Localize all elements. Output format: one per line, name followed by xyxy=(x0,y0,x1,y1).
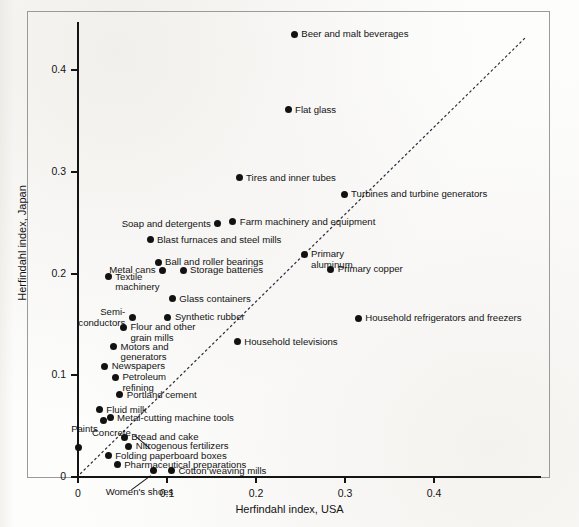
scatter-point-label: Storage batteries xyxy=(190,265,263,276)
scatter-point-label: Beer and malt beverages xyxy=(301,29,408,40)
y-tick-mark xyxy=(71,171,77,173)
scatter-point-label: Portland cement xyxy=(127,389,197,400)
y-tick-mark xyxy=(71,69,77,71)
scatter-point xyxy=(129,314,136,321)
scatter-point xyxy=(114,461,121,468)
scatter-point-label: Newspapers xyxy=(112,361,165,372)
y-tick-label: 0 xyxy=(36,470,66,482)
x-tick-mark xyxy=(344,477,346,483)
scatter-point xyxy=(355,315,362,322)
scatter-point-label: Metal-cutting machine tools xyxy=(117,413,234,424)
scatter-point xyxy=(341,191,348,198)
y-axis-title: Herfindahl index, Japan xyxy=(16,163,28,323)
y-tick-mark xyxy=(71,374,77,376)
scatter-point xyxy=(155,259,162,266)
scatter-point-label: Tires and inner tubes xyxy=(246,173,336,184)
scatter-point-label: Flat glass xyxy=(295,104,336,115)
scatter-point-label: Concrete xyxy=(92,428,131,439)
y-axis-line xyxy=(77,22,79,478)
scatter-point-label: Turbines and turbine generators xyxy=(351,189,487,200)
scatter-point-label: Blast furnaces and steel mills xyxy=(157,235,281,246)
scatter-point xyxy=(236,174,243,181)
x-tick-label: 0 xyxy=(58,487,98,499)
scatter-point-label: Household refrigerators and freezers xyxy=(365,313,521,324)
y-tick-mark xyxy=(71,273,77,275)
scatter-point xyxy=(100,417,107,424)
y-tick-label: 0.3 xyxy=(36,165,66,177)
scatter-point xyxy=(180,267,187,274)
scatter-point xyxy=(159,267,166,274)
scatter-point xyxy=(291,31,298,38)
scatter-point xyxy=(120,324,127,331)
scatter-point xyxy=(285,106,292,113)
scatter-point xyxy=(234,338,241,345)
y-tick-label: 0.1 xyxy=(36,368,66,380)
scatter-point xyxy=(147,236,154,243)
scatter-point-label: Women's shoes xyxy=(106,487,174,498)
scatter-point xyxy=(101,363,108,370)
scatter-point-label: Glass containers xyxy=(179,294,250,305)
scatter-point-label: Semi- conductors xyxy=(78,307,125,328)
x-tick-mark xyxy=(255,477,257,483)
scatter-point-label: Household televisions xyxy=(244,336,337,347)
x-tick-mark xyxy=(77,477,79,483)
x-tick-mark xyxy=(166,477,168,483)
scatter-point-label: Primary copper xyxy=(338,264,403,275)
y-tick-label: 0.4 xyxy=(36,63,66,75)
x-axis-title: Herfindahl index, USA xyxy=(0,503,579,515)
scatter-point-label: Cotton weaving mills xyxy=(178,466,266,477)
scatter-point-label: Soap and detergents xyxy=(122,218,211,229)
scatter-point-label: Farm machinery and equipment xyxy=(240,216,375,227)
scatter-point xyxy=(301,251,308,258)
scatter-point xyxy=(105,273,112,280)
x-tick-label: 0.2 xyxy=(236,487,276,499)
x-tick-mark xyxy=(433,477,435,483)
x-tick-label: 0.3 xyxy=(325,487,365,499)
scatter-point xyxy=(112,374,119,381)
x-tick-label: 0.4 xyxy=(414,487,454,499)
scatter-point-label: Textile machinery xyxy=(115,271,159,292)
y-tick-label: 0.2 xyxy=(36,267,66,279)
scatter-point xyxy=(105,452,112,459)
figure-container: 00.10.20.30.4 00.10.20.30.4 Herfindahl i… xyxy=(0,0,579,527)
